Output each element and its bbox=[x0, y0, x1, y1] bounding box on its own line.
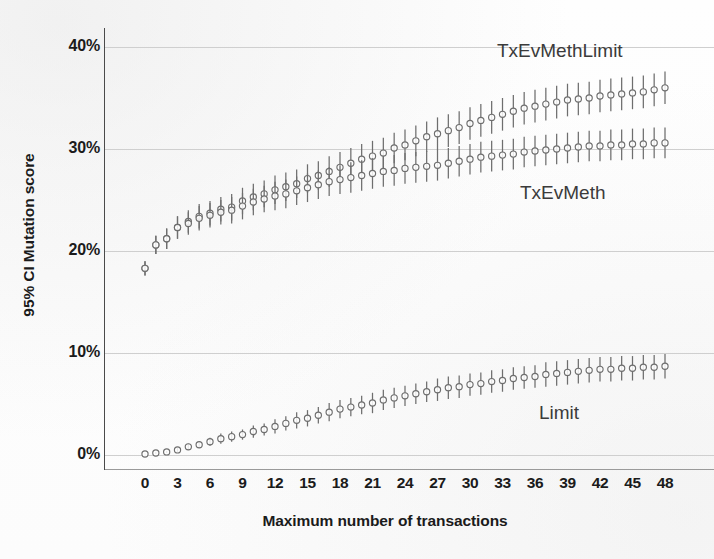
series-limit bbox=[142, 354, 668, 457]
y-tick-label-0pct: 0% bbox=[38, 445, 100, 463]
plot-svg bbox=[104, 28, 714, 470]
y-tick-label-10pct: 10% bbox=[38, 343, 100, 361]
series-annotation-txevmeth: TxEvMeth bbox=[520, 182, 606, 204]
series-annotation-txevmethlimit: TxEvMethLimit bbox=[497, 40, 623, 62]
plot-area bbox=[104, 28, 714, 470]
gridlines bbox=[104, 47, 714, 455]
y-tick-label-40pct: 40% bbox=[38, 37, 100, 55]
y-tick-label-30pct: 30% bbox=[38, 139, 100, 157]
x-axis-title: Maximum number of transactions bbox=[100, 512, 670, 530]
y-tick-label-20pct: 20% bbox=[38, 241, 100, 259]
x-axis-tick-labels: 036912151821242730333639424548 bbox=[0, 474, 714, 500]
x-tick-label-48: 48 bbox=[645, 474, 685, 492]
chart-page: 95% CI Mutation score 0%10%20%30%40% 036… bbox=[0, 0, 714, 559]
series-annotation-limit: Limit bbox=[539, 402, 579, 424]
